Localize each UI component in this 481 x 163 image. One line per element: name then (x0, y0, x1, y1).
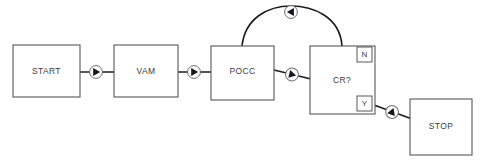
arrow-marker-pocc-cr-icon (284, 67, 299, 82)
arrow-marker-cr-pocc-icon (285, 6, 298, 19)
branch-n-text: N (362, 50, 368, 59)
node-start-label: START (32, 66, 61, 76)
node-pocc-label: POCC (230, 66, 256, 76)
flowchart-canvas: START VAM POCC CR? STOP N Y (0, 0, 481, 163)
node-cr-label: CR? (333, 75, 351, 85)
node-pocc[interactable]: POCC (211, 46, 274, 100)
branch-label-n: N (357, 47, 372, 62)
node-stop[interactable]: STOP (410, 99, 472, 155)
branch-label-y: Y (357, 96, 372, 111)
arrow-marker-start-vam-icon (90, 66, 103, 79)
arrow-marker-cr-stop-icon (384, 104, 400, 120)
node-start[interactable]: START (13, 45, 80, 97)
node-vam-label: VAM (137, 66, 156, 76)
flowchart-diagram: START VAM POCC CR? STOP N Y (0, 0, 481, 163)
node-stop-label: STOP (429, 121, 453, 131)
node-vam[interactable]: VAM (114, 45, 178, 97)
arrow-marker-vam-pocc-icon (188, 66, 201, 79)
branch-y-text: Y (362, 99, 368, 108)
